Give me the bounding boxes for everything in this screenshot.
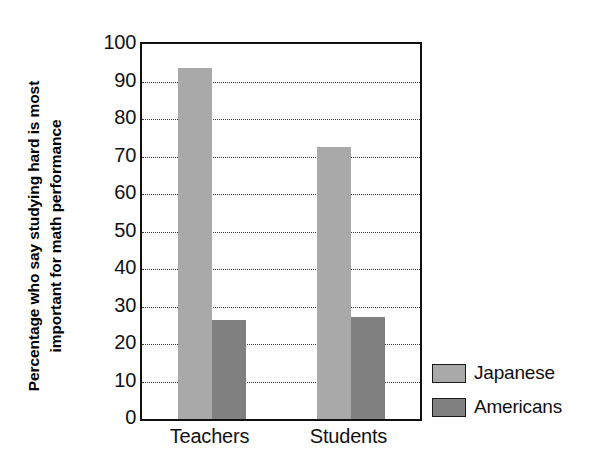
y-axis-tick-40: 40 (84, 257, 136, 277)
bar-japanese-teachers (178, 68, 212, 419)
x-axis-label-teachers: Teachers (140, 425, 280, 448)
bar-chart-figure: Percentage who say studying hard is most… (0, 0, 595, 471)
legend-item-japanese: Japanese (432, 356, 582, 390)
bar-japanese-students (317, 147, 351, 419)
plot-inner (142, 44, 420, 419)
y-axis-title-line-2: important for math performance (45, 80, 67, 390)
y-axis-title-line-1: Percentage who say studying hard is most (23, 80, 45, 390)
y-axis-tick-60: 60 (84, 182, 136, 202)
y-axis-title: Percentage who say studying hard is most… (8, 0, 82, 471)
y-axis-tick-50: 50 (84, 220, 136, 240)
legend-label-japanese: Japanese (474, 362, 555, 384)
y-axis-tick-20: 20 (84, 332, 136, 352)
y-axis-tick-90: 90 (84, 70, 136, 90)
y-axis-tick-70: 70 (84, 145, 136, 165)
legend-swatch-japanese (432, 364, 466, 383)
y-axis-tick-labels: 1009080706050403020100 (80, 0, 136, 471)
legend-label-americans: Americans (474, 396, 562, 418)
y-axis-tick-80: 80 (84, 107, 136, 127)
bar-americans-students (351, 317, 385, 419)
legend-swatch-americans (432, 398, 466, 417)
y-axis-tick-100: 100 (84, 32, 136, 52)
bar-americans-teachers (212, 320, 246, 419)
chart-legend: JapaneseAmericans (432, 356, 582, 424)
y-axis-tick-10: 10 (84, 370, 136, 390)
legend-item-americans: Americans (432, 390, 582, 424)
x-axis-label-students: Students (279, 425, 419, 448)
plot-area (140, 42, 422, 421)
y-axis-tick-30: 30 (84, 295, 136, 315)
y-axis-tick-0: 0 (84, 407, 136, 427)
